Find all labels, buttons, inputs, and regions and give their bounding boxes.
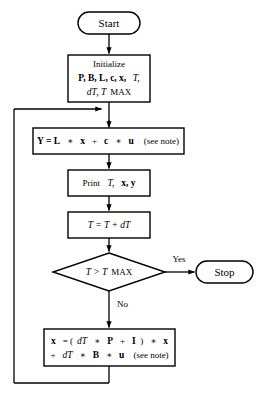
node-state-update[interactable]: x = ( dT ∗ P + I ) ∗ x + dT ∗ B ∗ u (see… (44, 329, 175, 366)
output-eq-bold3: c (104, 136, 108, 146)
node-stop[interactable]: Stop (196, 261, 253, 283)
flowchart-canvas: Start Initialize P, B, L, c, x, T, dT, T… (0, 0, 256, 402)
node-print[interactable]: Print T, x, y (68, 170, 150, 196)
output-eq-bold1: Y = L (37, 136, 60, 146)
initialize-line3-ital: dT, T (87, 87, 107, 97)
node-initialize[interactable]: Initialize P, B, L, c, x, T, dT, T MAX (68, 55, 150, 102)
state-update-l1-plus: + (120, 336, 125, 346)
start-label: Start (99, 17, 120, 29)
state-update-l1-close: ) (140, 336, 143, 346)
flowchart-svg: Start Initialize P, B, L, c, x, T, dT, T… (0, 0, 256, 402)
state-update-l1-op2: ∗ (150, 336, 156, 346)
state-update-l2-b1: B (93, 350, 100, 360)
state-update-l1-b4: x (163, 336, 168, 346)
state-update-l2-i1: dT (62, 350, 73, 360)
advance-time-label: T = T + dT (88, 220, 131, 230)
state-update-l2-plus: + (50, 350, 55, 360)
node-output-equation[interactable]: Y = L ∗ x + c ∗ u (see note) (33, 128, 184, 154)
output-eq-note: (see note) (144, 136, 179, 146)
decision-ital: T > T (86, 267, 108, 277)
edge-label-no: No (117, 299, 128, 309)
state-update-l1-eq: = ( (63, 336, 73, 346)
state-update-l2-op1: ∗ (80, 350, 86, 360)
output-eq-plus1: + (92, 136, 97, 146)
state-update-l2-b2: u (119, 350, 125, 360)
initialize-line3-roman: MAX (110, 87, 132, 97)
state-update-l2-note: (see note) (133, 350, 168, 360)
state-update-l1-op1: ∗ (94, 336, 100, 346)
output-eq-bold2: x (80, 136, 85, 146)
output-eq-op2: ∗ (115, 136, 121, 146)
print-ital: T, (107, 178, 114, 188)
print-word: Print (82, 178, 100, 188)
output-eq-op1: ∗ (67, 136, 73, 146)
node-start[interactable]: Start (78, 12, 140, 34)
state-update-box-shape (44, 329, 175, 366)
node-decision[interactable]: T > T MAX (53, 253, 165, 291)
node-advance-time[interactable]: T = T + dT (68, 212, 150, 238)
edge-label-yes: Yes (172, 254, 186, 264)
state-update-l1-b3: I (132, 336, 136, 346)
output-eq-bold4: u (128, 136, 134, 146)
decision-roman: MAX (111, 267, 133, 277)
state-update-l2-op2: ∗ (106, 350, 112, 360)
stop-label: Stop (214, 266, 235, 278)
initialize-line1: Initialize (93, 59, 125, 69)
print-bold: x, y (121, 178, 136, 188)
initialize-line2-ital: T, (133, 73, 140, 83)
initialize-line2-bold: P, B, L, c, x, (78, 73, 127, 83)
